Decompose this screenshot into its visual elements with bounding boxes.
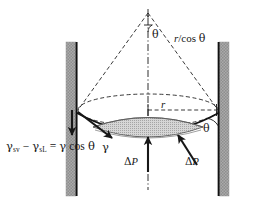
equals-sign: = — [50, 140, 57, 152]
gamma-sv-symbol: γ — [6, 139, 13, 153]
radius-label: r — [161, 99, 165, 110]
slant-length-label: r/cos θ — [174, 33, 205, 44]
diagram-canvas — [0, 0, 253, 206]
contact-angle-label: θ — [203, 123, 210, 134]
theta-symbol: θ — [88, 139, 95, 153]
slant-theta: θ — [199, 32, 206, 45]
gamma-symbol: γ — [59, 139, 66, 153]
pressure-left-label: ΔP — [124, 156, 138, 168]
right-wall — [219, 42, 229, 196]
cos-text: cos — [69, 140, 85, 152]
delta-symbol-left: Δ — [124, 155, 132, 167]
p-symbol-left: P — [132, 156, 138, 167]
apex-angle-label: θ — [152, 29, 159, 40]
capillary-meniscus-figure: γsv − γsL = γ cos θ γ r r/cos θ θ θ ΔP Δ… — [0, 0, 253, 206]
slant-cos: cos — [181, 32, 196, 44]
minus-sign: − — [23, 140, 30, 152]
gamma-sl-subscript: sL — [39, 145, 47, 154]
surface-tension-label: γ — [102, 142, 109, 154]
p-symbol-right: P — [193, 156, 199, 167]
gamma-sv-subscript: sv — [13, 145, 20, 154]
radius-indicator — [148, 104, 217, 116]
pressure-right-label: ΔP — [185, 156, 199, 168]
young-equation-label: γsv − γsL = γ cos θ — [6, 141, 95, 153]
delta-symbol-right: Δ — [185, 155, 193, 167]
